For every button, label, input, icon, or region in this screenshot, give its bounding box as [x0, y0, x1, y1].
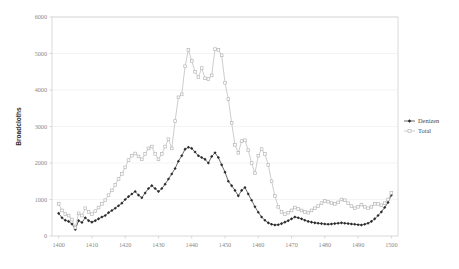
data-point — [140, 158, 143, 161]
data-point — [277, 205, 280, 208]
data-point — [333, 203, 336, 206]
data-point — [91, 213, 94, 216]
data-point — [77, 212, 80, 215]
data-point — [71, 218, 74, 221]
data-point — [190, 59, 193, 62]
data-point — [330, 202, 333, 205]
data-point — [177, 96, 180, 99]
data-point — [227, 98, 230, 101]
legend-label-denizen[interactable]: Denizen — [418, 117, 440, 124]
data-point — [360, 203, 363, 206]
broadcloths-line-chart: 0100020003000400050006000 14001410142014… — [0, 0, 459, 269]
data-point — [114, 184, 117, 187]
data-point — [210, 74, 213, 77]
data-point — [134, 152, 137, 155]
data-point — [250, 162, 253, 165]
legend-marker-diamond — [408, 119, 412, 123]
data-point — [207, 78, 210, 81]
data-point — [111, 189, 114, 192]
data-point — [257, 154, 260, 157]
data-point — [307, 211, 310, 214]
data-point — [154, 153, 157, 156]
y-tick-label: 5000 — [35, 50, 47, 57]
data-point — [373, 203, 376, 206]
x-axis-tick-labels: 1400141014201430144014501460147014801490… — [52, 236, 397, 248]
chart-legend: DenizenTotal — [404, 117, 440, 134]
data-point — [81, 214, 84, 217]
data-point — [107, 194, 110, 197]
data-point — [264, 153, 267, 156]
data-point — [254, 172, 257, 175]
x-tick-label: 1400 — [52, 241, 64, 248]
data-point — [104, 199, 107, 202]
data-point — [240, 140, 243, 143]
data-point — [204, 77, 207, 80]
data-point — [61, 209, 64, 212]
data-point — [244, 139, 247, 142]
data-point — [367, 207, 370, 210]
data-point — [337, 201, 340, 204]
data-point — [327, 200, 330, 203]
data-point — [390, 192, 393, 195]
data-point — [323, 200, 326, 203]
data-point — [260, 148, 263, 151]
data-point — [170, 147, 173, 150]
data-point — [347, 202, 350, 205]
y-tick-label: 3000 — [35, 123, 47, 130]
data-point — [343, 199, 346, 202]
data-point — [130, 154, 133, 157]
y-axis-title: Broadcloths — [15, 107, 22, 146]
data-point — [310, 209, 313, 212]
data-point — [94, 210, 97, 213]
data-point — [160, 153, 163, 156]
data-point — [247, 149, 250, 152]
data-point — [377, 203, 380, 206]
data-point — [137, 155, 140, 158]
y-tick-label: 6000 — [35, 13, 47, 20]
data-point — [74, 226, 77, 229]
data-point — [127, 159, 130, 162]
data-point — [357, 205, 360, 208]
data-point — [353, 207, 356, 210]
data-point — [124, 166, 127, 169]
y-tick-label: 2000 — [35, 159, 47, 166]
data-point — [284, 213, 287, 216]
x-tick-label: 1460 — [252, 241, 264, 248]
data-point — [274, 195, 277, 198]
x-tick-label: 1450 — [219, 241, 231, 248]
data-point — [237, 151, 240, 154]
data-point — [167, 138, 170, 141]
data-point — [87, 211, 90, 214]
data-point — [363, 205, 366, 208]
data-point — [270, 180, 273, 183]
data-point — [224, 81, 227, 84]
data-point — [230, 122, 233, 125]
legend-marker-square — [408, 130, 411, 133]
data-point — [340, 198, 343, 201]
x-tick-label: 1500 — [385, 241, 397, 248]
data-point — [380, 204, 383, 207]
legend-label-total[interactable]: Total — [418, 127, 431, 134]
y-tick-label: 1000 — [35, 196, 47, 203]
x-tick-label: 1480 — [319, 241, 331, 248]
y-axis-tick-labels: 0100020003000400050006000 — [35, 13, 52, 239]
data-point — [280, 211, 283, 214]
data-point — [317, 205, 320, 208]
data-point — [200, 67, 203, 70]
data-point — [147, 147, 150, 150]
x-tick-label: 1470 — [285, 241, 297, 248]
data-point — [164, 145, 167, 148]
data-point — [234, 143, 237, 146]
data-point — [370, 205, 373, 208]
data-point — [144, 153, 147, 156]
data-point — [187, 49, 190, 52]
data-point — [300, 209, 303, 212]
data-point — [313, 207, 316, 210]
data-point — [387, 198, 390, 201]
chart-container: 0100020003000400050006000 14001410142014… — [0, 0, 459, 269]
data-point — [303, 211, 306, 214]
data-point — [121, 173, 124, 176]
data-point — [57, 203, 60, 206]
data-point — [217, 49, 220, 52]
x-tick-label: 1420 — [119, 241, 131, 248]
